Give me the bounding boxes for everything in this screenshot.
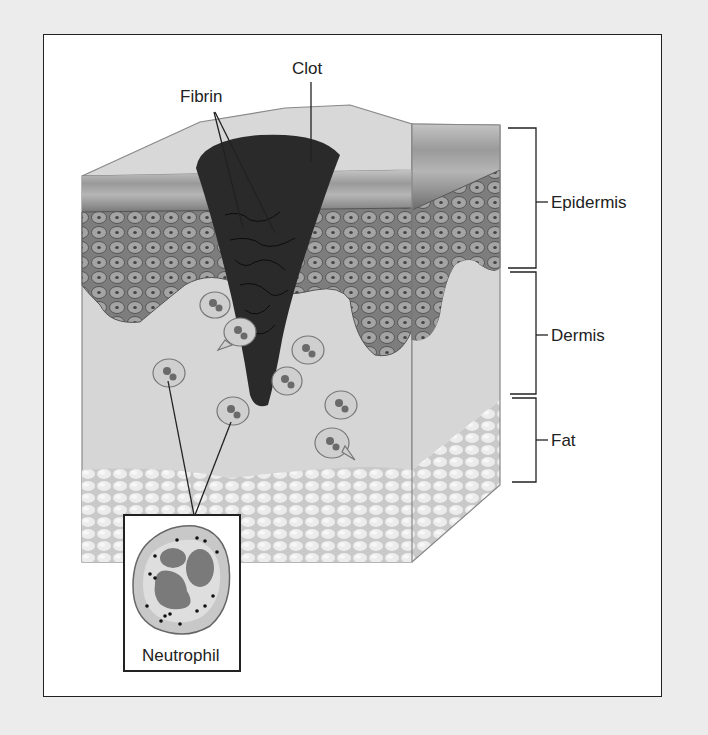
label-clot: Clot	[292, 60, 322, 77]
label-neutrophil: Neutrophil	[142, 647, 220, 664]
label-fibrin: Fibrin	[180, 88, 223, 105]
layer-brackets	[508, 128, 548, 482]
label-epidermis: Epidermis	[551, 194, 627, 211]
label-dermis: Dermis	[551, 327, 605, 344]
label-fat: Fat	[551, 432, 576, 449]
skin-diagram	[0, 0, 708, 735]
